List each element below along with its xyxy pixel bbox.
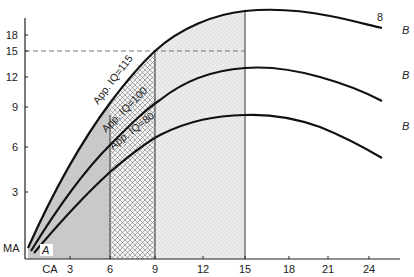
y-tick-9: 9 — [12, 101, 18, 113]
endpoint-b-iq-100: B — [402, 69, 409, 81]
y-axis-label: MA — [3, 242, 20, 254]
x-tick-3: 3 — [67, 263, 73, 275]
stray-mark-8: 8 — [377, 11, 383, 23]
x-axis-label: CA — [42, 263, 58, 275]
y-tick-15: 15 — [6, 45, 18, 57]
y-tick-12: 12 — [6, 71, 18, 83]
mental-age-chart: App. IQ=115 App. IQ=100 App. IQ=80 A B B… — [0, 0, 414, 277]
x-tick-15: 15 — [239, 263, 251, 275]
x-tick-9: 9 — [152, 263, 158, 275]
point-a-label: A — [41, 244, 49, 256]
region-gray — [25, 0, 110, 259]
x-tick-18: 18 — [283, 263, 295, 275]
x-tick-6: 6 — [107, 263, 113, 275]
endpoint-b-iq-115: B — [402, 24, 409, 36]
y-tick-18: 18 — [6, 29, 18, 41]
x-tick-24: 24 — [363, 263, 375, 275]
y-tick-6: 6 — [12, 141, 18, 153]
x-tick-12: 12 — [197, 263, 209, 275]
endpoint-b-iq-80: B — [402, 120, 409, 132]
y-tick-3: 3 — [12, 186, 18, 198]
x-tick-21: 21 — [322, 263, 334, 275]
